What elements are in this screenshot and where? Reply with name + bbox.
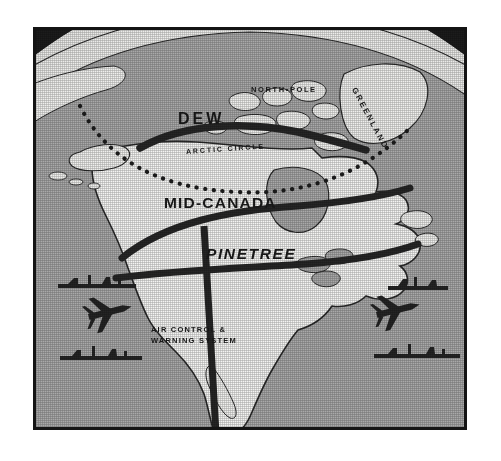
label-air-control-warning-system: AIR CONTROL & WARNING SYSTEM — [151, 324, 237, 346]
label-acw-line1: AIR CONTROL & — [151, 324, 237, 335]
label-acw-line2: WARNING SYSTEM — [151, 335, 237, 346]
label-mid-canada-line: MID-CANADA — [164, 194, 277, 212]
north-america-radar-map — [36, 30, 464, 427]
globe-body — [36, 30, 464, 427]
label-north-pole: NORTH•POLE — [251, 85, 317, 94]
page-root: NORTH•POLE GREENLAND DEW ARCTIC CIRCLE M… — [0, 0, 501, 461]
map-plate: NORTH•POLE GREENLAND DEW ARCTIC CIRCLE M… — [36, 30, 464, 427]
map-figure-frame: NORTH•POLE GREENLAND DEW ARCTIC CIRCLE M… — [33, 27, 467, 430]
label-pinetree-line: PINETREE — [206, 245, 296, 263]
label-dew-line: DEW — [178, 110, 224, 128]
